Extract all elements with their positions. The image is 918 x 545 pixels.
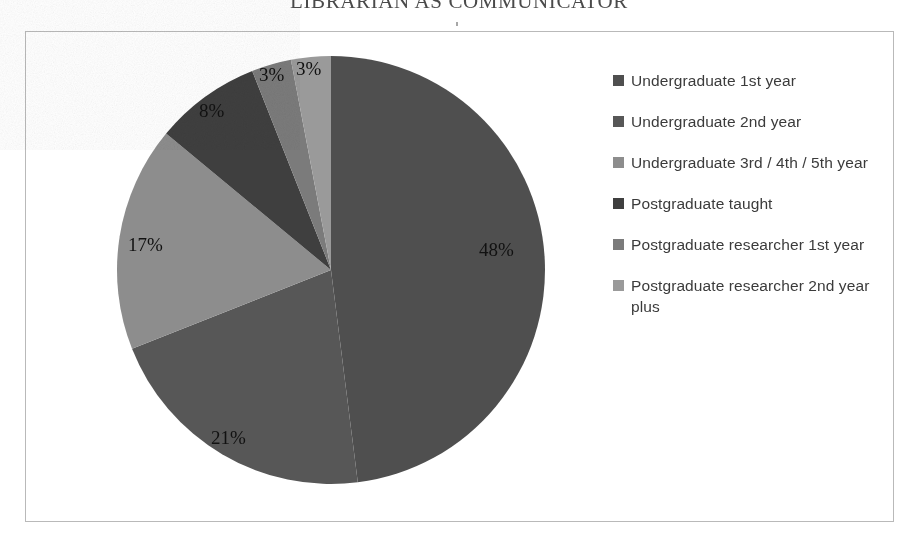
legend-swatch-icon [613, 116, 624, 127]
legend-item-label: Postgraduate taught [631, 193, 773, 214]
pie-data-label: 3% [259, 64, 284, 86]
legend-item[interactable]: Postgraduate taught [613, 193, 889, 214]
legend-item-label: Undergraduate 2nd year [631, 111, 801, 132]
legend-swatch-icon [613, 75, 624, 86]
legend-item[interactable]: Undergraduate 1st year [613, 70, 889, 91]
scan-artifact-speck [456, 22, 458, 26]
legend-item-label: Undergraduate 3rd / 4th / 5th year [631, 152, 868, 173]
legend-swatch-icon [613, 198, 624, 209]
legend-item[interactable]: Undergraduate 3rd / 4th / 5th year [613, 152, 889, 173]
pie-data-label: 3% [296, 58, 321, 80]
pie-data-label: 17% [128, 234, 163, 256]
pie-slice [331, 56, 545, 482]
pie-data-label: 8% [199, 100, 224, 122]
legend-swatch-icon [613, 239, 624, 250]
legend-item[interactable]: Postgraduate researcher 1st year [613, 234, 889, 255]
legend-item[interactable]: Undergraduate 2nd year [613, 111, 889, 132]
pie-data-label: 21% [211, 427, 246, 449]
legend-item-label: Postgraduate researcher 1st year [631, 234, 864, 255]
legend-item[interactable]: Postgraduate researcher 2nd year plus [613, 275, 889, 317]
page-running-head: LIBRARIAN AS COMMUNICATOR [0, 0, 918, 8]
legend-item-label: Postgraduate researcher 2nd year plus [631, 275, 889, 317]
pie-chart-svg [96, 35, 566, 505]
legend-swatch-icon [613, 280, 624, 291]
pie-data-label: 48% [479, 239, 514, 261]
legend-swatch-icon [613, 157, 624, 168]
chart-legend: Undergraduate 1st yearUndergraduate 2nd … [613, 70, 889, 337]
legend-item-label: Undergraduate 1st year [631, 70, 796, 91]
pie-chart: 48%21%17%8%3%3% [96, 35, 566, 505]
chart-frame: 48%21%17%8%3%3% Undergraduate 1st yearUn… [25, 31, 894, 522]
pie-slice-group [117, 56, 545, 484]
